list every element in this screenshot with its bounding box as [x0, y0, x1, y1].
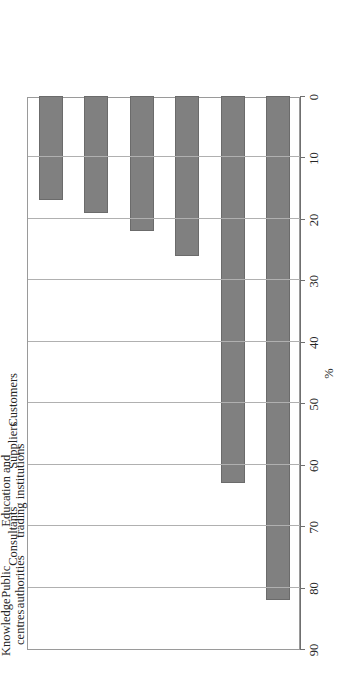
- plot-area: [27, 97, 300, 650]
- axis-tick-label: 80: [308, 582, 321, 595]
- bar-chart: 9080706050403020100 % CustomersSuppliers…: [0, 0, 344, 693]
- bar: [175, 96, 199, 256]
- gridline: [28, 402, 301, 403]
- gridline: [28, 587, 301, 588]
- value-axis-title: %: [322, 97, 337, 650]
- axis-tick-label: 40: [308, 337, 321, 350]
- axis-tick-label: 30: [308, 275, 321, 288]
- axis-tick-label: 50: [308, 398, 321, 411]
- axis-tick-label: 60: [308, 459, 321, 472]
- axis-tick: [300, 588, 305, 589]
- bar: [130, 96, 154, 231]
- axis-tick: [300, 96, 305, 97]
- gridline: [28, 156, 301, 157]
- axis-tick: [300, 219, 305, 220]
- axis-tick: [300, 526, 305, 527]
- axis-tick: [300, 465, 305, 466]
- axis-tick-label: 10: [308, 152, 321, 165]
- rotated-figure-stage: 9080706050403020100 % CustomersSuppliers…: [0, 0, 344, 693]
- gridline: [28, 464, 301, 465]
- gridline: [28, 525, 301, 526]
- bars-layer: [28, 98, 299, 649]
- bar: [39, 96, 63, 200]
- category-label: Knowledge centres: [0, 598, 27, 656]
- bar: [84, 96, 108, 213]
- axis-tick-label: 70: [308, 521, 321, 534]
- value-axis: [300, 97, 301, 650]
- axis-tick-label: 20: [308, 214, 321, 227]
- axis-tick: [300, 403, 305, 404]
- category-label: Customers: [7, 373, 21, 426]
- axis-tick: [300, 342, 305, 343]
- axis-tick-label: 90: [308, 644, 321, 657]
- axis-tick-label: 0: [308, 94, 321, 100]
- gridline: [28, 218, 301, 219]
- gridline: [28, 279, 301, 280]
- axis-tick: [300, 649, 305, 650]
- axis-tick: [300, 157, 305, 158]
- category-axis-labels: CustomersSuppliersEducation and trading …: [0, 97, 27, 650]
- bar: [221, 96, 245, 483]
- axis-tick: [300, 280, 305, 281]
- gridline: [28, 341, 301, 342]
